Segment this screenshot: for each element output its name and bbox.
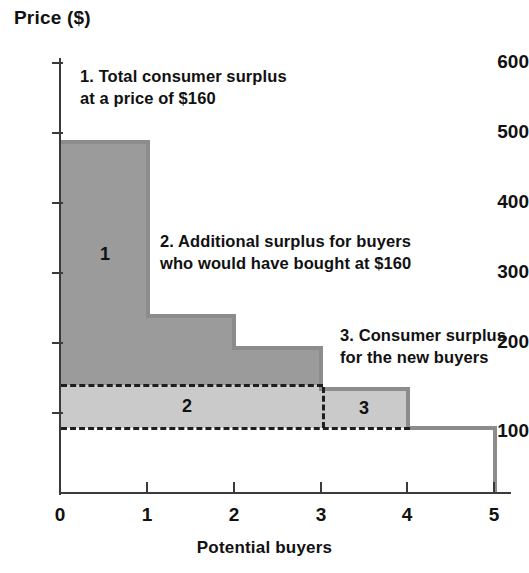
annotation-1-line-2: at a price of $160 bbox=[80, 88, 216, 109]
y-tick-400 bbox=[52, 202, 63, 204]
price-line-100 bbox=[61, 427, 410, 430]
x-tick-label-0: 0 bbox=[40, 504, 80, 526]
y-tick-label-100: 100 bbox=[483, 421, 529, 440]
x-tick-4 bbox=[406, 482, 408, 493]
consumer-surplus-chart: Price ($) Potential buyers 600 500 400 3… bbox=[0, 0, 529, 573]
step-top-3 bbox=[232, 346, 323, 350]
step-drop-3 bbox=[319, 346, 323, 389]
region-label-1: 1 bbox=[85, 244, 125, 265]
price-tie-vertical bbox=[322, 387, 325, 428]
y-tick-300 bbox=[52, 272, 63, 274]
annotation-2-line-1: 2. Additional surplus for buyers bbox=[160, 231, 411, 252]
y-axis-line bbox=[59, 58, 61, 495]
region-1-bar-2 bbox=[147, 315, 234, 385]
annotation-3-line-2: for the new buyers bbox=[340, 347, 489, 368]
region-label-3: 3 bbox=[344, 398, 384, 419]
x-tick-label-3: 3 bbox=[301, 504, 341, 526]
step-drop-4 bbox=[406, 387, 410, 428]
y-tick-label-300: 300 bbox=[483, 262, 529, 281]
step-top-2 bbox=[146, 314, 236, 318]
y-tick-200 bbox=[52, 342, 63, 344]
x-tick-label-2: 2 bbox=[214, 504, 254, 526]
step-top-1 bbox=[61, 140, 150, 144]
x-tick-3 bbox=[320, 482, 322, 493]
price-line-160 bbox=[61, 384, 323, 387]
y-tick-500 bbox=[52, 132, 63, 134]
annotation-1-line-1: 1. Total consumer surplus bbox=[80, 66, 287, 87]
x-tick-label-1: 1 bbox=[127, 504, 167, 526]
x-tick-label-5: 5 bbox=[474, 504, 514, 526]
y-axis-title: Price ($) bbox=[14, 7, 91, 29]
y-tick-label-400: 400 bbox=[483, 192, 529, 211]
x-tick-5 bbox=[493, 482, 495, 493]
annotation-2-line-2: who would have bought at $160 bbox=[160, 253, 411, 274]
x-tick-2 bbox=[233, 482, 235, 493]
y-tick-label-600: 600 bbox=[483, 52, 529, 71]
y-tick-600 bbox=[52, 62, 63, 64]
x-tick-1 bbox=[146, 482, 148, 493]
y-tick-100 bbox=[52, 412, 63, 414]
x-tick-label-4: 4 bbox=[387, 504, 427, 526]
x-axis-line bbox=[59, 492, 511, 494]
step-top-4 bbox=[319, 387, 410, 391]
y-tick-label-500: 500 bbox=[483, 122, 529, 141]
step-drop-1 bbox=[146, 140, 150, 318]
annotation-3-line-1: 3. Consumer surplus bbox=[340, 325, 506, 346]
x-axis-title: Potential buyers bbox=[0, 538, 529, 558]
region-1-bar-3 bbox=[234, 347, 321, 385]
step-drop-2 bbox=[232, 314, 236, 350]
region-label-2: 2 bbox=[167, 396, 207, 417]
